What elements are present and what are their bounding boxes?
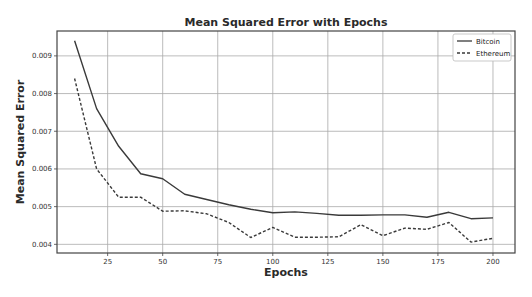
x-tick: 50 bbox=[158, 258, 167, 266]
chart-title: Mean Squared Error with Epochs bbox=[184, 16, 387, 29]
x-tick: 125 bbox=[321, 258, 334, 266]
y-axis-label: Mean Squared Error bbox=[14, 79, 27, 204]
x-tick: 150 bbox=[376, 258, 389, 266]
x-tick: 75 bbox=[213, 258, 222, 266]
x-axis-label: Epochs bbox=[264, 266, 308, 279]
mse-line-chart: 255075100125150175200 0.0040.0050.0060.0… bbox=[0, 0, 532, 297]
legend-ethereum-label: Ethereum bbox=[476, 50, 510, 58]
y-tick: 0.008 bbox=[32, 90, 52, 98]
x-tick: 200 bbox=[486, 258, 499, 266]
y-tick-labels: 0.0040.0050.0060.0070.0080.009 bbox=[32, 52, 53, 248]
y-tick: 0.006 bbox=[32, 165, 53, 173]
legend-bitcoin-label: Bitcoin bbox=[476, 38, 500, 46]
grid-lines bbox=[54, 31, 515, 256]
ethereum-line bbox=[75, 79, 493, 243]
plot-frame bbox=[57, 31, 515, 253]
legend: Bitcoin Ethereum bbox=[453, 34, 511, 61]
y-tick: 0.004 bbox=[32, 241, 53, 249]
y-tick: 0.005 bbox=[32, 203, 52, 211]
x-tick: 25 bbox=[103, 258, 112, 266]
y-tick: 0.009 bbox=[32, 52, 52, 60]
y-tick: 0.007 bbox=[32, 128, 52, 136]
data-lines bbox=[75, 41, 493, 242]
x-tick: 100 bbox=[266, 258, 279, 266]
x-tick: 175 bbox=[431, 258, 444, 266]
x-tick-labels: 255075100125150175200 bbox=[103, 258, 499, 266]
bitcoin-line bbox=[75, 41, 493, 219]
